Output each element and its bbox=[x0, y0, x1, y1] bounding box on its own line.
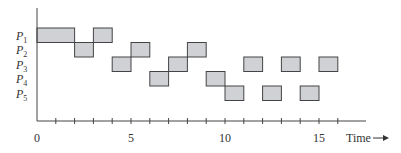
bar-p1 bbox=[93, 28, 112, 43]
bar-p3 bbox=[244, 57, 263, 72]
process-schedule-gantt-chart: P1P2P3P4P5 051015 Time bbox=[0, 0, 401, 153]
x-tick-label: 0 bbox=[34, 131, 40, 145]
bar-p3 bbox=[319, 57, 338, 72]
arrow-icon bbox=[373, 135, 389, 141]
x-tick-label: 10 bbox=[219, 131, 231, 145]
y-axis-labels: P1P2P3P4P5 bbox=[15, 29, 27, 103]
bar-p5 bbox=[300, 86, 319, 101]
bar-p4 bbox=[150, 72, 169, 87]
bar-p2 bbox=[187, 43, 206, 58]
bar-p3 bbox=[169, 57, 188, 72]
bar-p3 bbox=[112, 57, 131, 72]
row-label-p5: P5 bbox=[15, 87, 27, 103]
x-axis-tick-labels: 051015 bbox=[34, 131, 325, 145]
bar-p3 bbox=[281, 57, 300, 72]
x-tick-label: 15 bbox=[313, 131, 325, 145]
bar-p5 bbox=[263, 86, 282, 101]
bar-group bbox=[37, 28, 338, 101]
bar-p2 bbox=[131, 43, 150, 58]
bar-p1 bbox=[37, 28, 75, 43]
bar-p2 bbox=[75, 43, 94, 58]
x-axis-title: Time bbox=[346, 131, 371, 145]
x-tick-label: 5 bbox=[128, 131, 134, 145]
bar-p4 bbox=[206, 72, 225, 87]
bar-p5 bbox=[225, 86, 244, 101]
